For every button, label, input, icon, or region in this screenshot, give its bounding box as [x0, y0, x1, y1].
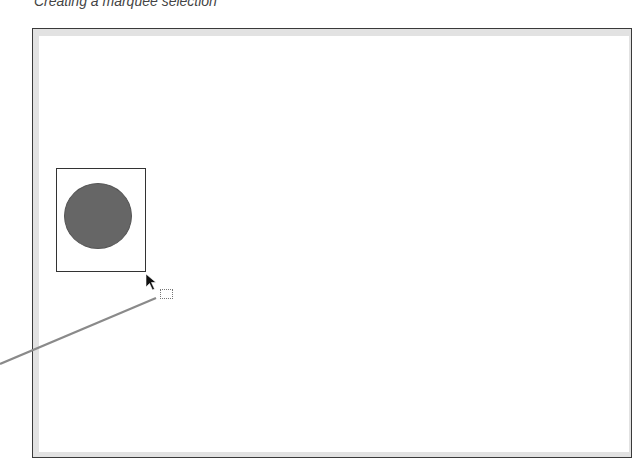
marquee-tool-badge-icon [160, 289, 173, 299]
arrow-cursor-icon [145, 273, 159, 293]
figure-caption: Creating a marquee selection [34, 0, 217, 9]
circle-shape[interactable] [64, 183, 132, 249]
